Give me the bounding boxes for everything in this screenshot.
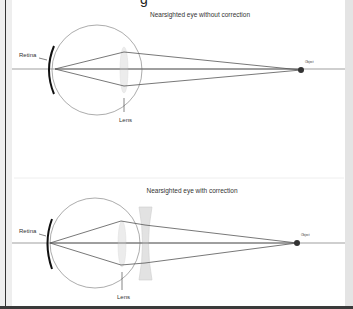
panel-title: Nearsighted eye without correction xyxy=(150,11,250,19)
lower-ray xyxy=(55,69,301,86)
lower-ray xyxy=(50,243,297,265)
concave-corrective-lens xyxy=(139,207,152,280)
object-label: Object xyxy=(305,60,314,64)
retina-arc xyxy=(49,46,54,94)
object-label: Object xyxy=(301,233,310,237)
object-dot xyxy=(294,240,300,246)
myopia-diagram: Nearsighted eye without correction Objec… xyxy=(0,0,353,309)
retina-label: Retina xyxy=(19,228,37,234)
lens-label: Lens xyxy=(119,117,132,123)
upper-ray xyxy=(55,52,301,70)
upper-ray xyxy=(50,221,297,243)
object-dot xyxy=(298,67,304,73)
panel-title: Nearsighted eye with correction xyxy=(146,187,237,195)
retina-pointer xyxy=(39,58,47,60)
retina-pointer xyxy=(39,234,46,236)
panel-without-correction: Nearsighted eye without correction Objec… xyxy=(12,11,345,123)
panel-with-correction: Nearsighted eye with correction Object R… xyxy=(12,187,345,300)
retina-label: Retina xyxy=(19,52,37,58)
eye-lens xyxy=(118,221,126,267)
lens-label: Lens xyxy=(117,294,130,300)
eyeball-outline xyxy=(52,25,142,115)
